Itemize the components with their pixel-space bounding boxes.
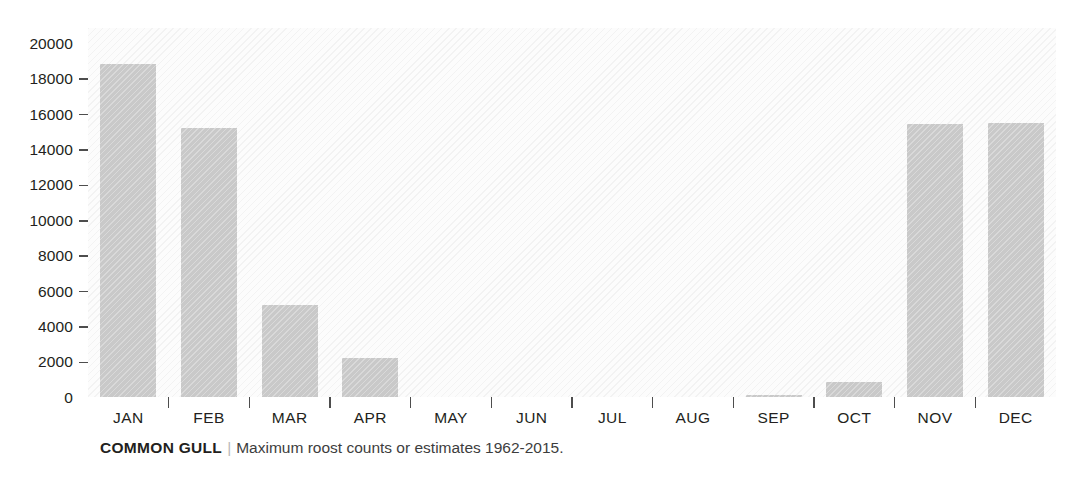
y-axis-tick-label: 8000: [38, 246, 73, 266]
caption-separator: |: [222, 439, 236, 456]
x-axis-slot: JUL: [572, 397, 653, 437]
y-axis-tick: 20000: [29, 33, 88, 53]
caption-species-name: COMMON GULL: [100, 439, 222, 456]
x-axis-label-jun: JUN: [491, 409, 572, 427]
caption-description: Maximum roost counts or estimates 1962-2…: [236, 439, 563, 456]
y-axis-tick-label: 14000: [29, 140, 73, 160]
y-axis-tick: 14000: [29, 139, 88, 159]
x-axis-label-jul: JUL: [572, 409, 653, 427]
bar-apr[interactable]: [342, 358, 398, 397]
y-axis-tick-label: 2000: [38, 352, 73, 372]
bar-nov[interactable]: [907, 124, 963, 397]
bar-slot: [491, 28, 572, 397]
x-axis-label-feb: FEB: [169, 409, 250, 427]
y-axis: 0200040006000800010000120001400016000180…: [0, 0, 88, 484]
bar-slot: [975, 28, 1056, 397]
y-axis-tick-mark: [79, 220, 88, 222]
y-axis-tick-label: 6000: [38, 282, 73, 302]
x-axis-slot: MAY: [411, 397, 492, 437]
y-axis-tick-label: 12000: [29, 175, 73, 195]
y-axis-tick-mark: [79, 114, 88, 116]
y-axis-tick: 4000: [38, 316, 88, 336]
x-axis-label-jan: JAN: [88, 409, 169, 427]
bar-slot: [653, 28, 734, 397]
x-axis-slot: SEP: [733, 397, 814, 437]
y-axis-tick-mark: [79, 78, 88, 80]
x-axis-slot: OCT: [814, 397, 895, 437]
x-axis-slot: APR: [330, 397, 411, 437]
bar-slot: [895, 28, 976, 397]
y-axis-tick-label: 10000: [29, 211, 73, 231]
bar-slot: [814, 28, 895, 397]
y-axis-tick: 18000: [29, 68, 88, 88]
bar-mar[interactable]: [262, 305, 318, 397]
x-axis-label-may: MAY: [411, 409, 492, 427]
bar-slot: [411, 28, 492, 397]
x-axis-slot: JUN: [491, 397, 572, 437]
bar-chart-figure: 0200040006000800010000120001400016000180…: [0, 0, 1078, 484]
bar-slot: [249, 28, 330, 397]
chart-page: 0200040006000800010000120001400016000180…: [0, 0, 1078, 484]
y-axis-tick-mark: [79, 149, 88, 151]
bar-slot: [88, 28, 169, 397]
bar-slot: [330, 28, 411, 397]
y-axis-tick-label: 0: [64, 388, 73, 408]
bars-layer: [88, 28, 1056, 397]
y-axis-tick-mark: [79, 326, 88, 328]
x-axis-slot: JAN: [88, 397, 169, 437]
x-axis-label-apr: APR: [330, 409, 411, 427]
bar-oct[interactable]: [826, 382, 882, 397]
y-axis-tick-mark: [79, 291, 88, 293]
x-axis-slot: DEC: [975, 397, 1056, 437]
x-axis-slot: FEB: [169, 397, 250, 437]
y-axis-tick-label: 18000: [29, 69, 73, 89]
x-axis-slot: MAR: [249, 397, 330, 437]
x-axis: JANFEBMARAPRMAYJUNJULAUGSEPOCTNOVDEC: [88, 397, 1056, 437]
bar-slot: [169, 28, 250, 397]
y-axis-tick: 2000: [38, 352, 88, 372]
y-axis-tick-mark: [79, 185, 88, 187]
bar-jan[interactable]: [100, 64, 156, 397]
y-axis-tick-mark: [79, 397, 88, 399]
x-axis-label-oct: OCT: [814, 409, 895, 427]
x-axis-slot: NOV: [895, 397, 976, 437]
x-axis-label-nov: NOV: [895, 409, 976, 427]
y-axis-tick-mark: [79, 255, 88, 257]
x-axis-label-aug: AUG: [653, 409, 734, 427]
y-axis-tick: 12000: [29, 175, 88, 195]
y-axis-tick-label: 4000: [38, 317, 73, 337]
y-axis-tick-mark: [79, 43, 88, 45]
y-axis-tick: 8000: [38, 245, 88, 265]
bar-feb[interactable]: [181, 128, 237, 397]
y-axis-tick-label: 16000: [29, 105, 73, 125]
y-axis-tick: 0: [64, 387, 88, 407]
y-axis-tick: 6000: [38, 281, 88, 301]
x-axis-label-sep: SEP: [733, 409, 814, 427]
x-axis-label-dec: DEC: [975, 409, 1056, 427]
bar-slot: [572, 28, 653, 397]
x-axis-slot: AUG: [653, 397, 734, 437]
y-axis-tick: 16000: [29, 104, 88, 124]
bar-slot: [733, 28, 814, 397]
y-axis-tick-mark: [79, 362, 88, 364]
bar-dec[interactable]: [988, 123, 1044, 397]
x-axis-label-mar: MAR: [249, 409, 330, 427]
y-axis-tick: 10000: [29, 210, 88, 230]
chart-caption: COMMON GULL|Maximum roost counts or esti…: [100, 439, 564, 457]
y-axis-tick-label: 20000: [29, 34, 73, 54]
